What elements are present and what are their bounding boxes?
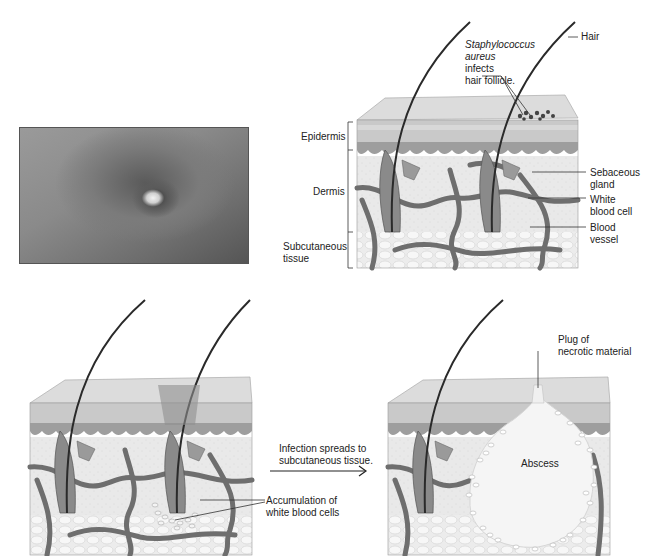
skin-cross-section-top xyxy=(0,0,650,556)
label-staphylococcus: Staphylococcus xyxy=(465,39,535,51)
label-hair: Hair xyxy=(581,31,599,43)
label-gland: gland xyxy=(590,179,614,191)
label-dermis: Dermis xyxy=(313,186,345,198)
label-plug: Plug of xyxy=(558,334,589,346)
label-blood-cell: blood cell xyxy=(590,206,632,218)
label-subcutaneous: Subcutaneous xyxy=(283,241,347,253)
label-aureus: aureus xyxy=(465,51,496,63)
label-vessel: vessel xyxy=(590,234,618,246)
label-hair-follicle: hair follicle. xyxy=(465,75,515,87)
transition-text-line1: Infection spreads to xyxy=(279,443,366,455)
label-abscess: Abscess xyxy=(521,458,559,470)
label-accumulation: Accumulation of xyxy=(266,495,337,507)
label-infects: infects xyxy=(465,63,494,75)
label-epidermis: Epidermis xyxy=(301,131,345,143)
label-white: White xyxy=(590,194,616,206)
label-blood: Blood xyxy=(590,222,616,234)
label-sebaceous: Sebaceous xyxy=(590,167,640,179)
label-white-blood-cells: white blood cells xyxy=(266,507,339,519)
label-necrotic-material: necrotic material xyxy=(558,346,631,358)
label-tissue: tissue xyxy=(283,253,309,265)
transition-text-line2: subcutaneous tissue. xyxy=(279,455,373,467)
